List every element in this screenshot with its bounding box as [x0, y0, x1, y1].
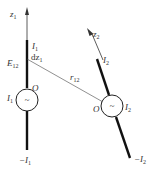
antenna1-origin-label: O [32, 83, 39, 93]
antenna1-current-top-label: I1 [31, 41, 38, 52]
field-label-e12: E12 [6, 58, 19, 69]
antenna1-source-label: I1 [6, 93, 13, 104]
antenna1-axis-arrow-icon [25, 7, 29, 15]
antenna1-source-symbol: ~ [25, 95, 30, 105]
antenna2-current-top-label: I2 [102, 55, 109, 66]
antenna2-axis-label: z2 [92, 29, 100, 40]
antenna2-source-symbol: ~ [110, 101, 115, 111]
distance-label-r12: r12 [70, 72, 80, 83]
coupled-antennas-diagram: ~ ~ z1 I1 dz1 E12 O I1 −I1 z2 I2 O I2 −I… [0, 0, 157, 174]
antenna2-origin-label: O [93, 104, 100, 114]
antenna2-source-label: I2 [124, 102, 131, 113]
antenna1-axis-label: z1 [9, 9, 17, 20]
antenna2-lower-arm [116, 117, 130, 158]
antenna1-element-label: dz1 [31, 52, 43, 63]
antenna2-current-bottom-label: −I2 [134, 154, 146, 165]
distance-line-r12 [27, 59, 103, 102]
antenna1-current-bottom-label: −I1 [19, 155, 31, 166]
